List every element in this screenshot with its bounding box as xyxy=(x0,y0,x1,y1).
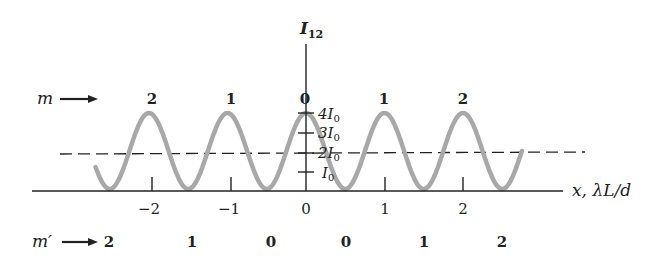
m-prime-order-labels: 2 1 0 0 1 2 xyxy=(104,233,507,251)
svg-text:1: 1 xyxy=(379,90,389,108)
svg-text:0: 0 xyxy=(301,200,311,218)
svg-text:1: 1 xyxy=(226,90,236,108)
m-prime-label: m′ xyxy=(32,231,52,251)
m-label: m xyxy=(37,88,53,108)
svg-text:0: 0 xyxy=(341,233,351,251)
svg-text:−1: −1 xyxy=(218,200,240,218)
m-order-labels: 2 1 0 1 2 xyxy=(147,90,468,108)
y-tick-label-2I0: 2I0 xyxy=(317,144,340,163)
y-tick-label-3I0: 3I0 xyxy=(318,124,340,143)
intensity-curve xyxy=(96,113,522,189)
svg-text:0: 0 xyxy=(300,90,310,108)
y-axis-label: I12 xyxy=(299,18,323,41)
m-arrow-icon xyxy=(60,95,98,103)
x-tick-labels: −2 −1 0 1 2 xyxy=(138,200,468,218)
m-prime-arrow-icon xyxy=(62,238,98,246)
svg-text:2: 2 xyxy=(458,200,468,218)
svg-text:2: 2 xyxy=(104,233,114,251)
interference-plot: I12 4I0 3I0 2I0 I0 −2 −1 0 1 2 x, λL/d m… xyxy=(0,0,670,263)
svg-text:−2: −2 xyxy=(138,200,160,218)
svg-text:1: 1 xyxy=(419,233,429,251)
y-tick-label-4I0: 4I0 xyxy=(317,105,340,124)
svg-text:2: 2 xyxy=(458,90,468,108)
svg-text:0: 0 xyxy=(266,233,276,251)
svg-text:2: 2 xyxy=(497,233,507,251)
svg-text:1: 1 xyxy=(187,233,197,251)
svg-text:1: 1 xyxy=(380,200,390,218)
x-axis-label: x, λL/d xyxy=(572,180,631,200)
svg-text:2: 2 xyxy=(147,90,157,108)
